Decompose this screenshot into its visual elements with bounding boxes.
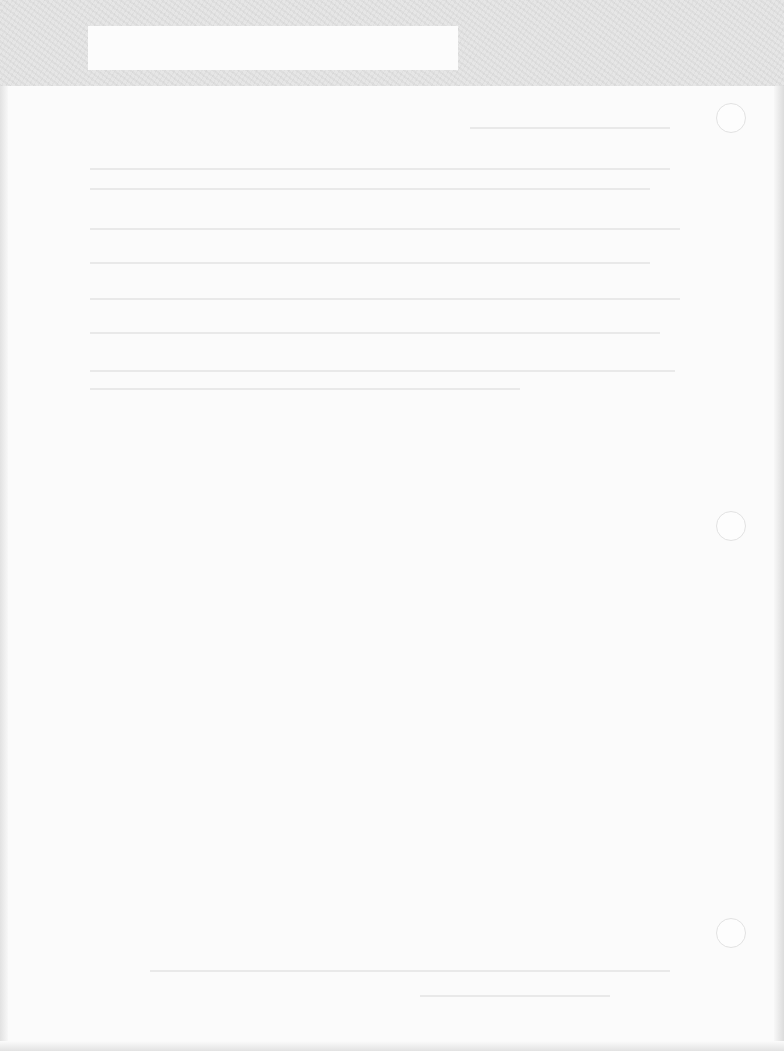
blank-label-area	[88, 26, 458, 70]
bleed-through-line	[470, 127, 670, 129]
punch-hole-middle	[716, 511, 746, 541]
bleed-through-line	[150, 970, 670, 972]
bleed-through-line	[90, 298, 680, 300]
page-edge-right	[774, 86, 784, 1051]
page-edge-bottom	[0, 1041, 784, 1051]
bleed-through-line	[90, 228, 680, 230]
bleed-through-line	[90, 168, 670, 170]
scanner-top-band	[0, 0, 784, 86]
bleed-through-line	[90, 332, 660, 334]
bleed-through-line	[90, 188, 650, 190]
bleed-through-line	[420, 995, 610, 997]
bleed-through-line	[90, 370, 675, 372]
punch-hole-bottom	[716, 918, 746, 948]
bleed-through-line	[90, 388, 520, 390]
bleed-through-line	[90, 262, 650, 264]
punch-hole-top	[716, 103, 746, 133]
page-edge-left	[0, 86, 8, 1051]
